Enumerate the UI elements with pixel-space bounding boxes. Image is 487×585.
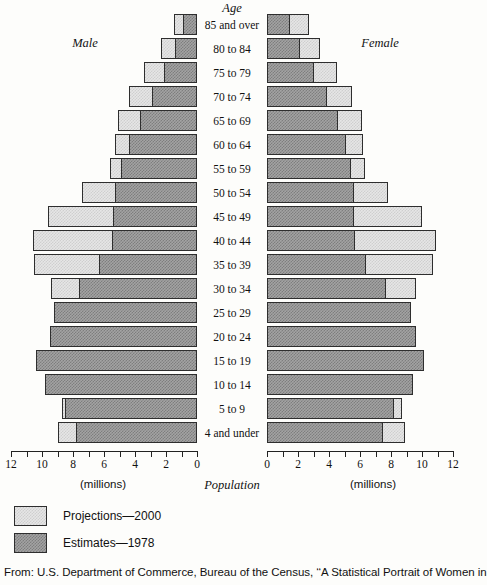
axis-tick [135, 451, 136, 457]
age-group-label: 40 to 44 [197, 229, 267, 253]
pyramid-row: 85 and over [0, 13, 464, 37]
axis-tick [453, 451, 454, 457]
axis-tick [376, 451, 377, 457]
right-axis: 024681012 [254, 451, 464, 477]
female-estimate-bar [267, 230, 355, 251]
pyramid-plot-area: 85 and over80 to 8475 to 7970 to 7465 to… [0, 13, 464, 445]
age-group-label: 80 to 84 [197, 37, 267, 61]
male-estimate-bar [36, 350, 197, 371]
female-estimate-bar [267, 110, 338, 131]
male-estimate-bar [45, 374, 197, 395]
male-estimate-bar [79, 278, 197, 299]
axis-tick-label: 8 [61, 458, 85, 470]
age-group-label: 35 to 39 [197, 253, 267, 277]
axis-tick-label: 6 [348, 458, 372, 470]
age-group-label: 4 and under [197, 421, 267, 445]
pyramid-row: 4 and under [0, 421, 464, 445]
axis-tick [407, 451, 408, 457]
axis-tick [314, 451, 315, 457]
male-estimate-bar [183, 14, 197, 35]
axis-tick-label: 6 [92, 458, 116, 470]
axis-tick-label: 0 [255, 458, 279, 470]
male-estimate-bar [129, 134, 197, 155]
female-estimate-bar [267, 326, 416, 347]
axis-tick [73, 451, 74, 457]
legend-swatch-estimates [14, 533, 47, 553]
axis-tick-label: 10 [30, 458, 54, 470]
male-estimate-bar [99, 254, 197, 275]
legend-swatch-projections [14, 506, 47, 526]
female-estimate-bar [267, 254, 366, 275]
axis-tick [42, 451, 43, 457]
pyramid-row: 10 to 14 [0, 373, 464, 397]
axis-tick [58, 451, 59, 457]
male-estimate-bar [113, 206, 197, 227]
pyramid-row: 55 to 59 [0, 157, 464, 181]
axis-tick [329, 451, 330, 457]
axis-tick [438, 451, 439, 457]
pyramid-row: 40 to 44 [0, 229, 464, 253]
female-estimate-bar [267, 398, 394, 419]
age-group-label: 70 to 74 [197, 85, 267, 109]
male-estimate-bar [76, 422, 197, 443]
axis-tick [151, 451, 152, 457]
female-estimate-bar [267, 350, 424, 371]
axis-tick [104, 451, 105, 457]
pyramid-row: 15 to 19 [0, 349, 464, 373]
right-axis-unit-label: (millions) [313, 478, 433, 490]
male-estimate-bar [121, 158, 197, 179]
male-estimate-bar [54, 302, 197, 323]
male-estimate-bar [152, 86, 197, 107]
axis-tick [360, 451, 361, 457]
female-estimate-bar [267, 86, 327, 107]
male-estimate-bar [65, 398, 197, 419]
male-estimate-bar [112, 230, 197, 251]
pyramid-row: 45 to 49 [0, 205, 464, 229]
age-group-label: 50 to 54 [197, 181, 267, 205]
female-estimate-bar [267, 134, 346, 155]
axis-tick [166, 451, 167, 457]
axis-tick [391, 451, 392, 457]
pyramid-row: 80 to 84 [0, 37, 464, 61]
age-group-label: 5 to 9 [197, 397, 267, 421]
axis-tick [298, 451, 299, 457]
axis-tick [27, 451, 28, 457]
female-estimate-bar [267, 302, 411, 323]
axis-tick [182, 451, 183, 457]
pyramid-row: 30 to 34 [0, 277, 464, 301]
legend-item: Estimates—1978 [14, 529, 161, 556]
female-estimate-bar [267, 38, 300, 59]
pyramid-row: 20 to 24 [0, 325, 464, 349]
population-axis-title: Population [197, 478, 267, 493]
female-estimate-bar [267, 206, 354, 227]
pyramid-row: 25 to 29 [0, 301, 464, 325]
age-group-label: 65 to 69 [197, 109, 267, 133]
legend-item: Projections—2000 [14, 502, 161, 529]
axis-tick [345, 451, 346, 457]
pyramid-row: 35 to 39 [0, 253, 464, 277]
axis-tick [197, 451, 198, 457]
age-group-label: 30 to 34 [197, 277, 267, 301]
axis-tick [422, 451, 423, 457]
age-group-label: 85 and over [197, 13, 267, 37]
axis-tick [283, 451, 284, 457]
legend-label-estimates: Estimates—1978 [63, 536, 154, 550]
legend: Projections—2000Estimates—1978 [14, 502, 161, 556]
female-estimate-bar [267, 62, 314, 83]
left-axis: 121086420 [0, 451, 210, 477]
axis-tick-label: 4 [123, 458, 147, 470]
age-group-label: 45 to 49 [197, 205, 267, 229]
pyramid-row: 70 to 74 [0, 85, 464, 109]
axis-tick-label: 10 [410, 458, 434, 470]
age-group-label: 10 to 14 [197, 373, 267, 397]
pyramid-row: 5 to 9 [0, 397, 464, 421]
axis-tick-label: 0 [185, 458, 209, 470]
male-estimate-bar [164, 62, 197, 83]
age-group-label: 15 to 19 [197, 349, 267, 373]
pyramid-row: 60 to 64 [0, 133, 464, 157]
axis-tick [120, 451, 121, 457]
axis-tick-label: 4 [317, 458, 341, 470]
axis-tick-label: 8 [379, 458, 403, 470]
pyramid-row: 75 to 79 [0, 61, 464, 85]
